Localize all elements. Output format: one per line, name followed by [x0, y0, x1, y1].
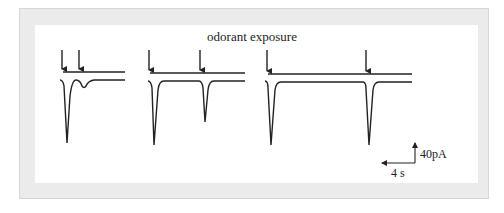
- scale-bar: [382, 143, 415, 163]
- response-trace: [265, 81, 412, 145]
- response-trace: [148, 81, 245, 145]
- response-trace: [60, 80, 125, 143]
- trace-group-3: [265, 50, 412, 145]
- time-scale-label: 4 s: [391, 166, 405, 180]
- figure-title: odorant exposure: [207, 29, 297, 44]
- trace-group-1: [60, 50, 125, 143]
- odorant-response-diagram: odorant exposure 40pA 4 s: [0, 0, 504, 213]
- current-scale-label: 40pA: [420, 147, 447, 161]
- trace-group-2: [148, 50, 245, 145]
